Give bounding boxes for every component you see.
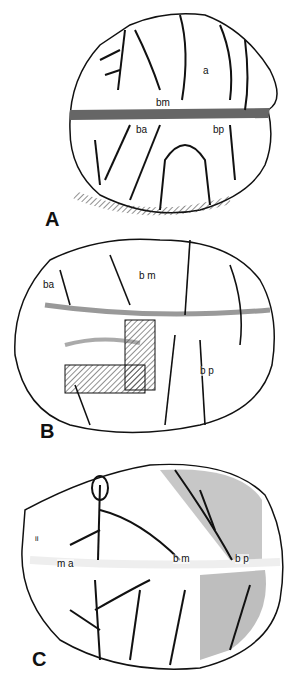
panel-c: ii m a b m b p C: [0, 450, 305, 687]
panel-label-c: C: [32, 648, 46, 671]
specimen-drawing-b: [0, 225, 305, 450]
annotation-bm: b m: [139, 271, 156, 281]
annotation-a: a: [203, 66, 209, 76]
annotation-ii: ii: [35, 535, 39, 543]
annotation-bp: bp: [213, 125, 224, 135]
specimen-drawing-a: [0, 0, 305, 225]
annotation-bp: b p: [200, 366, 214, 376]
annotation-ba: ba: [136, 125, 147, 135]
annotation-bm: b m: [173, 554, 190, 564]
annotation-ba: ba: [43, 280, 54, 290]
annotation-bp: b p: [235, 554, 249, 564]
panel-label-b: B: [40, 420, 54, 443]
annotation-bm: bm: [156, 98, 170, 108]
panel-b: ba b m b p B: [0, 225, 305, 450]
panel-a: a bm ba bp A: [0, 0, 305, 225]
annotation-ma: m a: [57, 559, 74, 569]
